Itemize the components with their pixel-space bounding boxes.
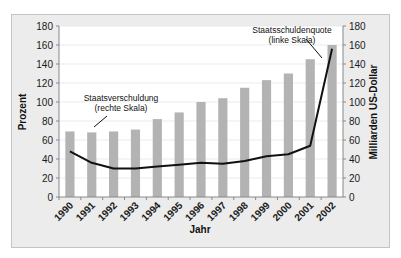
bar-1995 — [175, 112, 184, 197]
svg-text:20: 20 — [42, 173, 54, 184]
x-axis-ticks: 1990199119921993199419951996199719981999… — [52, 197, 338, 223]
svg-text:1994: 1994 — [139, 199, 163, 223]
svg-text:100: 100 — [349, 97, 366, 108]
svg-text:120: 120 — [36, 78, 53, 89]
svg-text:60: 60 — [42, 135, 54, 146]
right-axis-ticks: 020406080100120140160180 — [343, 21, 366, 203]
left-axis-ticks: 020406080100120140160180 — [36, 21, 59, 203]
bar-1993 — [131, 130, 140, 197]
bar-1991 — [87, 132, 96, 197]
right-axis-title: Milliarden US-Dollar — [368, 64, 379, 159]
svg-text:80: 80 — [42, 116, 54, 127]
svg-text:160: 160 — [36, 40, 53, 51]
bar-1990 — [65, 131, 74, 197]
annotation-bar-title: Staatsschuldenquote — [252, 25, 332, 35]
svg-text:140: 140 — [349, 59, 366, 70]
annotation-bar-subtitle: (linke Skala) — [269, 35, 316, 45]
bar-2000 — [284, 74, 293, 198]
svg-text:1990: 1990 — [52, 199, 76, 223]
svg-text:20: 20 — [349, 173, 361, 184]
svg-text:1998: 1998 — [227, 199, 251, 223]
annotation-line-title: Staatsverschuldung — [84, 93, 159, 103]
bar-1994 — [153, 119, 162, 197]
x-axis-title: Jahr — [189, 224, 210, 235]
svg-text:60: 60 — [349, 135, 361, 146]
bar-1992 — [109, 131, 118, 197]
bar-1997 — [218, 98, 227, 197]
left-axis-title: Prozent — [17, 93, 28, 130]
bar-2002 — [327, 45, 336, 197]
svg-text:120: 120 — [349, 78, 366, 89]
svg-text:80: 80 — [349, 116, 361, 127]
svg-text:160: 160 — [349, 40, 366, 51]
svg-text:40: 40 — [349, 154, 361, 165]
svg-text:1992: 1992 — [96, 199, 120, 223]
svg-text:1991: 1991 — [74, 199, 98, 223]
svg-text:2000: 2000 — [270, 199, 294, 223]
svg-text:140: 140 — [36, 59, 53, 70]
svg-text:1993: 1993 — [117, 199, 141, 223]
svg-text:100: 100 — [36, 97, 53, 108]
svg-text:1999: 1999 — [248, 199, 272, 223]
svg-text:2002: 2002 — [314, 199, 338, 223]
annotation-line-subtitle: (rechte Skala) — [95, 103, 148, 113]
svg-text:180: 180 — [36, 21, 53, 32]
svg-text:1995: 1995 — [161, 199, 185, 223]
svg-text:2001: 2001 — [292, 199, 316, 223]
bar-1998 — [240, 88, 249, 197]
svg-text:40: 40 — [42, 154, 54, 165]
bar-1999 — [262, 80, 271, 197]
svg-text:0: 0 — [349, 192, 355, 203]
debt-chart: 020406080100120140160180 020406080100120… — [0, 0, 401, 258]
svg-text:0: 0 — [47, 192, 53, 203]
svg-text:1996: 1996 — [183, 199, 207, 223]
svg-text:180: 180 — [349, 21, 366, 32]
bar-1996 — [196, 102, 205, 197]
svg-text:1997: 1997 — [205, 199, 229, 223]
